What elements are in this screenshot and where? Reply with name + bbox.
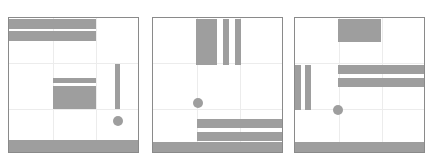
obstacle-block xyxy=(53,78,96,83)
obstacle-block xyxy=(338,65,425,74)
obstacle-block xyxy=(196,19,217,65)
agent-circle xyxy=(193,98,203,108)
obstacle-block xyxy=(9,19,96,29)
floor-band xyxy=(9,140,138,152)
floor-band xyxy=(295,142,424,152)
obstacle-block xyxy=(9,31,96,41)
grid-line-horizontal xyxy=(153,63,282,64)
obstacle-block xyxy=(338,78,425,87)
grid-line-vertical xyxy=(96,18,97,152)
obstacle-block xyxy=(235,19,241,65)
obstacle-block xyxy=(197,132,283,141)
grid-line-horizontal xyxy=(9,109,138,110)
obstacle-block xyxy=(115,64,120,109)
panel-1 xyxy=(8,17,139,153)
obstacle-block xyxy=(295,65,301,110)
agent-circle xyxy=(333,105,343,115)
grid-line-horizontal xyxy=(295,109,424,110)
grid-line-horizontal xyxy=(295,63,424,64)
agent-circle xyxy=(113,116,123,126)
obstacle-block xyxy=(305,65,311,110)
obstacle-block xyxy=(338,19,381,42)
obstacle-block xyxy=(197,119,283,128)
grid-line-horizontal xyxy=(153,109,282,110)
obstacle-block xyxy=(223,19,229,65)
floor-band xyxy=(153,142,282,152)
panel-3 xyxy=(294,17,425,153)
obstacle-block xyxy=(53,86,96,109)
panel-2 xyxy=(152,17,283,153)
